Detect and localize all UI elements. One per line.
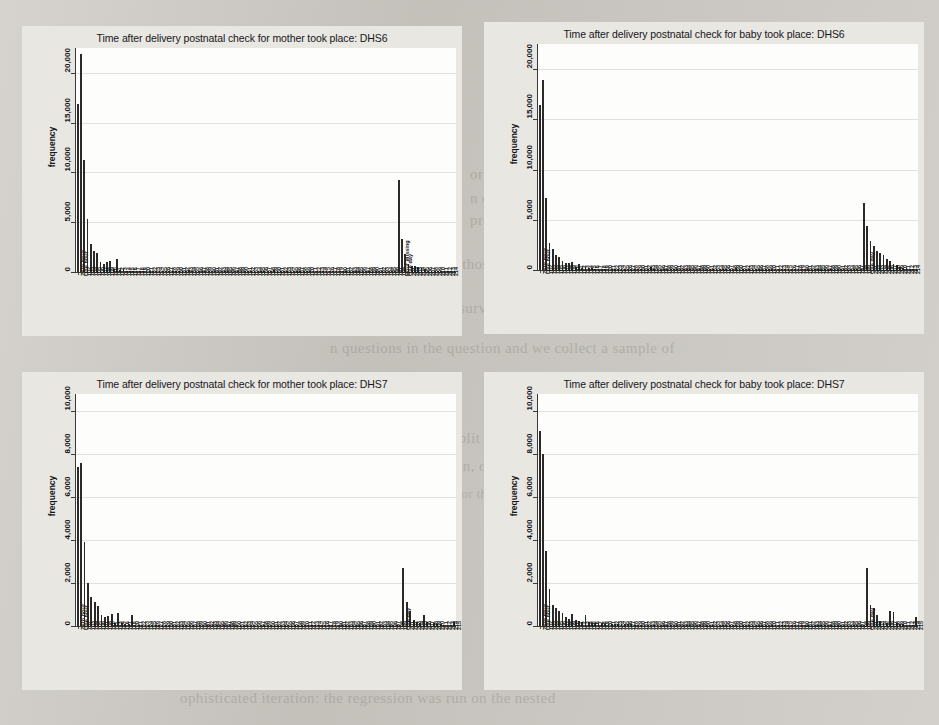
x-axis-tick <box>782 271 783 273</box>
x-axis-tick <box>435 273 436 275</box>
x-axis-tick <box>661 627 662 629</box>
x-axis-tick <box>638 271 639 273</box>
x-axis-tick <box>720 271 721 273</box>
x-axis-tick <box>733 627 734 629</box>
x-axis-tick <box>445 273 446 275</box>
x-axis-tick <box>207 627 208 629</box>
x-axis-tick <box>333 273 334 275</box>
y-axis-tick <box>533 497 537 498</box>
x-axis-tick <box>664 271 665 273</box>
x-axis-tick <box>349 627 350 629</box>
x-axis-tick <box>245 273 246 275</box>
x-axis-tick <box>776 271 777 273</box>
x-axis-tick-label: 214 <box>915 265 921 274</box>
y-axis-tick <box>533 220 537 221</box>
x-axis-tick <box>129 627 130 629</box>
x-axis-tick <box>363 273 364 275</box>
x-axis-tick <box>697 271 698 273</box>
x-axis-tick <box>697 627 698 629</box>
x-axis-tick <box>674 271 675 273</box>
x-axis-tick <box>897 627 898 629</box>
y-axis-tick <box>533 583 537 584</box>
x-axis-tick <box>224 627 225 629</box>
y-axis-line <box>75 394 76 627</box>
x-axis-tick <box>271 627 272 629</box>
x-axis-tick <box>383 627 384 629</box>
x-axis-tick <box>818 271 819 273</box>
y-axis-label: frequency <box>509 122 519 166</box>
x-axis-tick <box>78 273 79 275</box>
x-axis-tick <box>795 627 796 629</box>
gridline <box>76 540 456 541</box>
chart-title: Time after delivery postnatal check for … <box>484 28 924 40</box>
x-axis-tick <box>717 271 718 273</box>
x-axis-tick <box>186 273 187 275</box>
x-axis-tick <box>190 627 191 629</box>
x-axis-tick <box>251 627 252 629</box>
x-axis-tick <box>258 273 259 275</box>
x-axis-tick <box>789 271 790 273</box>
x-axis-tick <box>700 627 701 629</box>
x-axis-tick <box>142 627 143 629</box>
x-axis-tick <box>651 627 652 629</box>
x-axis-tick <box>356 627 357 629</box>
y-axis-tick <box>533 626 537 627</box>
x-axis-tick <box>422 273 423 275</box>
x-axis-tick <box>684 627 685 629</box>
x-axis-tick <box>854 271 855 273</box>
x-axis-tick <box>166 273 167 275</box>
chart-panel-baby-dhs6: Time after delivery postnatal check for … <box>484 22 924 334</box>
x-axis-tick <box>332 627 333 629</box>
x-axis-tick <box>81 627 82 629</box>
x-axis-tick <box>681 271 682 273</box>
x-axis-tick <box>146 627 147 629</box>
y-axis-tick <box>71 123 75 124</box>
x-axis-tick <box>232 273 233 275</box>
x-axis-tick <box>153 273 154 275</box>
x-axis-tick <box>105 627 106 629</box>
x-axis-tick <box>710 627 711 629</box>
x-axis-tick <box>828 627 829 629</box>
x-axis-tick <box>841 271 842 273</box>
x-axis-tick <box>913 271 914 273</box>
x-axis-tick <box>540 627 541 629</box>
x-axis-tick <box>651 271 652 273</box>
x-axis-tick <box>363 627 364 629</box>
x-axis-tick <box>163 627 164 629</box>
x-axis-tick <box>189 273 190 275</box>
bar <box>542 80 544 270</box>
x-axis-tick <box>117 273 118 275</box>
x-axis-tick <box>409 273 410 275</box>
x-axis-tick <box>766 271 767 273</box>
x-axis-tick <box>861 271 862 273</box>
x-axis-tick <box>307 273 308 275</box>
x-axis-tick <box>150 273 151 275</box>
x-axis-tick <box>815 627 816 629</box>
x-axis-tick <box>353 627 354 629</box>
x-axis-tick <box>237 627 238 629</box>
gridline <box>76 583 456 584</box>
bar <box>542 454 544 626</box>
x-axis-tick <box>913 627 914 629</box>
x-axis-tick <box>235 273 236 275</box>
x-axis-tick <box>156 627 157 629</box>
x-axis-tick <box>635 271 636 273</box>
x-axis-tick <box>88 627 89 629</box>
x-axis-tick <box>707 271 708 273</box>
x-axis-tick <box>222 273 223 275</box>
y-axis-tick <box>71 411 75 412</box>
x-axis-tick <box>379 273 380 275</box>
bar <box>863 203 865 270</box>
x-axis-tick <box>910 271 911 273</box>
x-axis-tick <box>295 627 296 629</box>
x-axis-tick <box>107 273 108 275</box>
y-axis-line <box>75 48 76 273</box>
x-axis-tick <box>115 627 116 629</box>
x-axis-tick <box>199 273 200 275</box>
x-axis-tick <box>746 627 747 629</box>
x-axis-tick <box>241 627 242 629</box>
x-axis-tick <box>212 273 213 275</box>
x-axis-tick <box>720 627 721 629</box>
x-axis-tick <box>599 627 600 629</box>
bar <box>539 105 541 270</box>
